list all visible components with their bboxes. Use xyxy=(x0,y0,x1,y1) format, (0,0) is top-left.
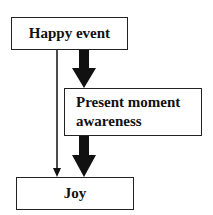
node-present-moment-awareness: Present moment awareness xyxy=(64,88,202,136)
node-happy-event: Happy event xyxy=(11,17,128,50)
thick-arrow-happy-to-awareness xyxy=(72,50,96,88)
node-joy: Joy xyxy=(16,177,134,210)
node-label: Happy event xyxy=(29,25,110,42)
node-label-line1: Present moment xyxy=(76,93,201,112)
node-label: Joy xyxy=(64,185,87,202)
thin-arrow-happy-to-joy xyxy=(53,50,61,177)
thick-arrow-awareness-to-joy xyxy=(72,136,96,177)
node-label-line2: awareness xyxy=(76,112,201,131)
